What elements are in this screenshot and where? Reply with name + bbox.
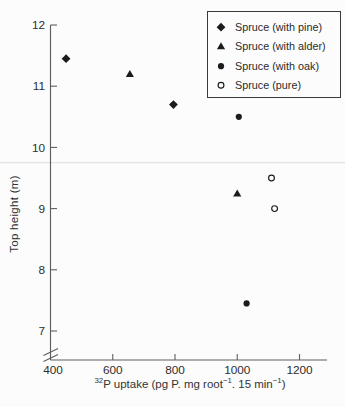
data-point <box>269 175 275 181</box>
scatter-figure: 78910111240060080010001200 Top height (m… <box>0 0 345 407</box>
x-axis-label-superscript: −1 <box>273 376 282 385</box>
y-tick-label: 11 <box>33 79 45 93</box>
legend-item-label: Spruce (with oak) <box>235 60 319 72</box>
legend-marker <box>213 39 229 53</box>
legend-item: Spruce (with pine) <box>213 17 340 37</box>
x-tick-label: 1200 <box>286 363 313 377</box>
x-tick-label: 800 <box>165 363 185 377</box>
x-axis-label-text: ) <box>282 378 286 390</box>
legend-marker <box>213 20 229 34</box>
legend-item-label: Spruce (with alder) <box>235 40 326 52</box>
legend-marker <box>213 59 229 73</box>
x-axis-label-superscript: −1 <box>223 376 232 385</box>
filled-triangle-marker <box>217 43 225 50</box>
legend: Spruce (with pine)Spruce (with alder)Spr… <box>207 11 341 98</box>
x-axis-label-text: P uptake (pg P. mg root <box>103 378 223 390</box>
legend-item: Spruce (with oak) <box>213 56 340 76</box>
filled-circle-marker <box>218 63 224 69</box>
data-point <box>62 54 71 63</box>
x-axis-label: 32P uptake (pg P. mg root−1. 15 min−1) <box>51 378 329 390</box>
legend-item: Spruce (pure) <box>213 76 340 96</box>
legend-item-label: Spruce (pure) <box>235 79 301 91</box>
data-point <box>236 114 242 120</box>
y-tick-label: 12 <box>32 18 45 32</box>
data-point <box>233 189 241 196</box>
x-tick-label: 600 <box>103 363 123 377</box>
data-point <box>272 206 278 212</box>
open-circle-marker <box>218 83 224 89</box>
y-tick-label: 9 <box>38 202 45 216</box>
legend-item-label: Spruce (with pine) <box>235 21 322 33</box>
x-axis-label-text: . 15 min <box>232 378 273 390</box>
legend-item: Spruce (with alder) <box>213 37 340 57</box>
data-point <box>169 100 178 109</box>
legend-marker <box>213 78 229 92</box>
data-point <box>243 300 249 306</box>
x-tick-label: 400 <box>43 363 63 377</box>
y-tick-label: 8 <box>38 263 45 277</box>
filled-diamond-marker <box>217 23 226 32</box>
x-axis-label-superscript: 32 <box>94 376 103 385</box>
y-tick-label: 10 <box>32 141 46 155</box>
y-tick-label: 7 <box>38 324 45 338</box>
x-tick-label: 1000 <box>224 363 251 377</box>
data-point <box>126 70 134 77</box>
y-axis-label: Top height (m) <box>8 175 20 253</box>
